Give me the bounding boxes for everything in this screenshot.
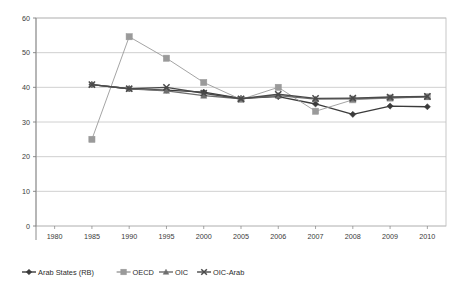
x-tick-label: 2006 (270, 232, 286, 241)
y-tick-label: 50 (22, 48, 30, 57)
y-axis-tick-labels: 0102030405060 (22, 14, 30, 231)
data-point-square (126, 34, 132, 40)
y-tick-label: 0 (26, 222, 30, 231)
line-chart: 0102030405060 19801985199019952000200520… (0, 0, 454, 292)
y-tick-label: 20 (22, 152, 30, 161)
data-point-square (121, 269, 127, 275)
x-tick-label: 2009 (382, 232, 398, 241)
data-point-diamond (26, 269, 32, 275)
legend-label: Arab States (RB) (38, 268, 94, 277)
x-tick-label: 1980 (47, 232, 63, 241)
chart-container: 0102030405060 19801985199019952000200520… (0, 0, 454, 292)
data-point-square (201, 79, 207, 85)
x-tick-label: 2010 (419, 232, 435, 241)
legend-item-3[interactable]: OIC (159, 268, 189, 277)
legend-item-4[interactable]: OIC-Arab (197, 268, 244, 277)
x-tick-label: 2007 (308, 232, 324, 241)
x-tick-label: 2008 (345, 232, 361, 241)
x-tick-label: 2000 (196, 232, 212, 241)
data-point-square (275, 84, 281, 90)
x-tick-label: 1995 (158, 232, 174, 241)
data-point-square (163, 55, 169, 61)
chart-legend: Arab States (RB)OECDOICOIC-Arab (22, 268, 244, 277)
data-point-square (312, 108, 318, 114)
y-tick-label: 10 (22, 187, 30, 196)
y-tick-label: 40 (22, 83, 30, 92)
x-tick-label: 1990 (121, 232, 137, 241)
x-tick-label: 2005 (233, 232, 249, 241)
legend-label: OIC (175, 268, 189, 277)
x-axis-tick-labels: 1980198519901995200020052006200720082009… (47, 232, 436, 241)
legend-label: OIC-Arab (213, 268, 244, 277)
legend-item-2[interactable]: OECD (117, 268, 154, 277)
y-tick-label: 30 (22, 118, 30, 127)
legend-item-1[interactable]: Arab States (RB) (22, 268, 94, 277)
y-tick-label: 60 (22, 14, 30, 23)
x-tick-label: 1985 (84, 232, 100, 241)
legend-label: OECD (133, 268, 154, 277)
data-point-square (89, 136, 95, 142)
